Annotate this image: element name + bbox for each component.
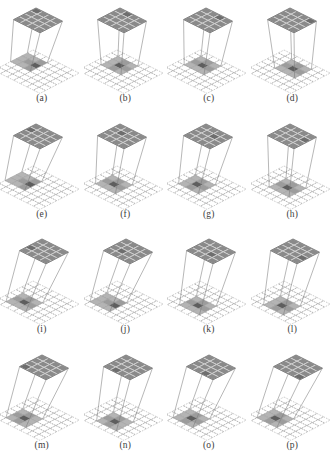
- figure-panel-f: (f): [84, 116, 168, 232]
- output-grid: [270, 239, 319, 264]
- input-grid-cell: [35, 406, 47, 412]
- input-grid-cell: [167, 296, 179, 302]
- input-grid-cell: [301, 310, 313, 316]
- input-grid-cell: [295, 81, 307, 87]
- input-grid-cell: [193, 78, 205, 84]
- input-grid-cell: [42, 294, 54, 300]
- input-grid-cell: [212, 428, 224, 434]
- output-grid: [187, 355, 236, 380]
- input-grid-cell: [194, 397, 206, 403]
- panel-caption-n: (n): [84, 440, 168, 450]
- input-grid-cell: [20, 427, 32, 433]
- input-grid-cell: [100, 287, 112, 293]
- panel-caption-p: (p): [251, 440, 334, 450]
- input-grid-cell: [234, 185, 246, 191]
- input-grid-cell: [228, 419, 240, 425]
- input-grid-cell: [211, 422, 223, 428]
- projection-line: [6, 251, 20, 302]
- input-grid-cell: [39, 431, 51, 437]
- figure-panel-i: (i): [0, 231, 84, 347]
- input-grid-cell: [301, 194, 313, 200]
- output-grid: [184, 8, 233, 33]
- input-grid-cell: [202, 406, 214, 412]
- input-grid-cell: [311, 182, 323, 188]
- input-grid-cell: [209, 409, 221, 415]
- input-grid-cell: [272, 53, 284, 59]
- figure-panel-m: (m): [0, 347, 84, 462]
- input-grid-cell: [145, 188, 157, 194]
- input-grid-cell: [271, 81, 283, 87]
- panel-diagram-k: [167, 231, 251, 326]
- input-grid-cell: [174, 190, 186, 196]
- input-grid-cell: [37, 187, 49, 193]
- panel-diagram-m: [0, 347, 84, 442]
- input-grid-cell: [258, 190, 270, 196]
- input-grid-cell: [138, 300, 150, 306]
- input-grid-cell: [133, 188, 145, 194]
- input-grid-cell: [116, 197, 128, 203]
- input-grid-cell: [111, 50, 123, 56]
- input-grid-cell: [45, 197, 57, 203]
- output-grid: [187, 239, 236, 264]
- input-grid-cell: [181, 77, 193, 83]
- input-grid-cell: [43, 416, 55, 422]
- output-grid: [20, 355, 69, 380]
- input-grid-cell: [304, 294, 316, 300]
- input-grid-cell: [133, 419, 145, 425]
- input-grid-cell: [180, 71, 192, 77]
- input-grid-cell: [32, 312, 44, 318]
- input-grid-cell: [55, 300, 67, 306]
- input-grid-cell: [50, 194, 62, 200]
- input-grid-cell: [228, 73, 240, 79]
- input-grid-cell: [257, 68, 269, 74]
- input-grid-cell: [221, 410, 233, 416]
- input-grid-cell: [283, 428, 295, 434]
- input-grid-cell: [28, 403, 40, 409]
- panel-caption-b: (b): [84, 93, 168, 103]
- figure-panel-g: (g): [167, 116, 251, 232]
- input-grid-cell: [54, 294, 66, 300]
- projection-line: [184, 20, 185, 65]
- panel-caption-i: (i): [0, 324, 84, 334]
- output-grid: [273, 355, 322, 380]
- panel-caption-g: (g): [167, 209, 251, 219]
- input-grid-cell: [104, 196, 116, 202]
- projection-line: [5, 135, 14, 180]
- input-grid-cell: [189, 399, 201, 405]
- panel-caption-d: (d): [251, 93, 334, 103]
- input-grid-cell: [276, 78, 288, 84]
- input-grid-cell: [251, 71, 263, 77]
- input-grid-cell: [262, 65, 274, 71]
- panel-diagram-p: [251, 347, 334, 442]
- input-grid-cell: [127, 75, 139, 81]
- input-grid-cell: [311, 298, 323, 304]
- input-grid-cell: [122, 78, 134, 84]
- input-grid-cell: [194, 84, 206, 90]
- input-grid-cell: [112, 287, 124, 293]
- input-grid-cell: [167, 180, 179, 186]
- input-grid-cell: [144, 298, 156, 304]
- input-grid-cell: [134, 310, 146, 316]
- input-grid-cell: [194, 199, 206, 205]
- input-grid-cell: [38, 309, 50, 315]
- output-grid: [20, 239, 69, 264]
- input-grid: [251, 397, 330, 440]
- input-grid-cell: [139, 191, 151, 197]
- panel-diagram-o: [167, 347, 251, 442]
- figure-panel-j: (j): [84, 231, 168, 347]
- input-grid-cell: [273, 290, 285, 296]
- input-grid-cell: [48, 182, 60, 188]
- input-grid-cell: [119, 406, 131, 412]
- input-grid-cell: [261, 290, 273, 296]
- input-grid-cell: [44, 191, 56, 197]
- input-grid-cell: [277, 430, 289, 436]
- input-grid-cell: [110, 199, 122, 205]
- input-grid-cell: [227, 413, 239, 419]
- input-grid-cell: [216, 303, 228, 309]
- input-grid-cell: [39, 84, 51, 90]
- input-grid-cell: [217, 310, 229, 316]
- input-grid-cell: [295, 197, 307, 203]
- input-grid-cell: [217, 79, 229, 85]
- input-grid-cell: [56, 422, 68, 428]
- input-grid-cell: [139, 76, 151, 82]
